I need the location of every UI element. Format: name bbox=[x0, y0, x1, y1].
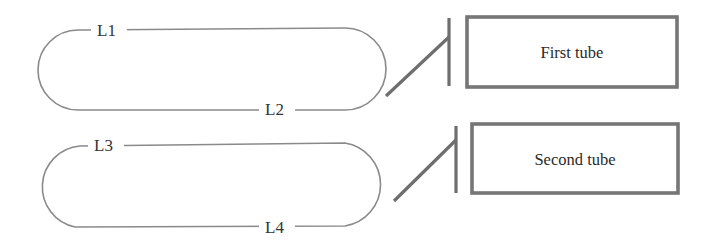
switch-1 bbox=[386, 18, 449, 96]
loop-2-bottom-label: L4 bbox=[265, 218, 284, 237]
second-tube-box: Second tube bbox=[472, 124, 678, 193]
second-tube-label: Second tube bbox=[534, 150, 615, 169]
tube-loop-diagram: L1 L2 First tube L3 L4 Second tube bbox=[0, 0, 715, 244]
switch-2-lever bbox=[394, 140, 456, 201]
switch-1-lever bbox=[386, 37, 449, 96]
first-tube-label: First tube bbox=[541, 43, 604, 62]
loop-1-top-label: L1 bbox=[97, 21, 116, 40]
loop-2-top-label: L3 bbox=[94, 136, 113, 155]
first-tube-box: First tube bbox=[467, 17, 677, 87]
loop-2: L3 L4 bbox=[42, 134, 380, 238]
loop-1-bottom-label: L2 bbox=[265, 100, 284, 119]
switch-2 bbox=[394, 126, 456, 201]
loop-1-outline bbox=[38, 28, 386, 110]
loop-1: L1 L2 bbox=[38, 18, 386, 120]
